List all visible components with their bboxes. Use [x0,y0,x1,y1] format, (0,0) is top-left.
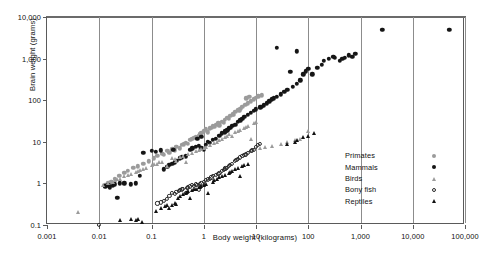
data-point-mammals [264,101,268,105]
data-point-reptiles [285,142,289,146]
data-point-bony-fish [161,199,165,203]
data-point-mammals [188,147,192,151]
data-point-mammals [270,97,274,101]
data-point-primates [136,164,140,168]
data-point-reptiles [228,170,232,174]
data-point-bony-fish [209,175,213,179]
data-point-birds [212,141,216,145]
data-point-reptiles [198,185,202,189]
data-point-primates [161,153,165,157]
chart-legend: PrimatesMammalsBirdsBony fishReptiles [345,150,441,207]
data-point-mammals [170,161,174,165]
data-point-reptiles [312,131,316,135]
data-point-primates [110,182,114,186]
legend-label: Birds [345,174,427,183]
data-point-birds [101,183,105,187]
data-point-reptiles [165,203,169,207]
data-point-mammals [319,63,323,67]
data-point-bony-fish [198,182,202,186]
data-point-reptiles [194,187,198,191]
data-point-primates [113,176,117,180]
data-point-mammals [171,147,175,151]
data-point-bony-fish [197,188,201,192]
data-point-bony-fish [227,164,231,168]
legend-item-primates: Primates [345,150,441,161]
legend-marker-glyph [432,165,436,169]
data-point-bony-fish [233,159,237,163]
data-point-birds [122,174,126,178]
data-point-primates [209,125,213,129]
data-point-reptiles [227,171,231,175]
data-point-reptiles [118,218,122,222]
data-point-primates [217,123,221,127]
legend-item-birds: Birds [345,173,441,184]
data-point-primates [244,96,248,100]
data-point-mammals [226,126,230,130]
data-point-bony-fish [192,184,196,188]
data-point-reptiles [140,220,144,224]
data-point-birds [106,181,110,185]
data-point-mammals [282,90,286,94]
data-point-reptiles [174,202,178,206]
data-point-mammals [246,112,250,116]
data-point-mammals [211,138,215,142]
data-point-birds [118,177,122,181]
data-point-primates [186,142,190,146]
data-point-bony-fish [188,184,192,188]
data-point-mammals [294,49,298,53]
data-point-bony-fish [244,152,248,156]
data-point-mammals [122,181,126,185]
data-point-bony-fish [249,149,253,153]
data-point-birds [134,170,138,174]
y-axis-tick [43,59,47,60]
data-point-birds [225,134,229,138]
data-point-birds [236,129,240,133]
data-point-birds [238,128,242,132]
data-point-mammals [331,55,335,59]
data-point-mammals [288,70,292,74]
y-axis-tick [43,142,47,143]
data-point-reptiles [240,164,244,168]
data-point-birds [160,160,164,164]
data-point-mammals [225,128,229,132]
data-point-reptiles [238,174,242,178]
gridline-vertical [465,17,466,223]
legend-item-reptiles: Reptiles [345,196,441,207]
data-point-mammals [240,116,244,120]
data-point-mammals [108,185,112,189]
data-point-mammals [190,146,194,150]
data-point-mammals [134,181,138,185]
data-point-birds [76,210,80,214]
data-point-reptiles [223,173,227,177]
data-point-reptiles [192,187,196,191]
data-point-primates [249,99,253,103]
x-axis-tick [361,225,362,229]
data-point-birds [181,154,185,158]
gridline-vertical [99,17,100,223]
data-point-mammals [347,53,351,57]
data-point-birds [173,157,177,161]
data-point-bony-fish [176,189,180,193]
data-point-mammals [196,144,200,148]
y-axis-tick [43,225,47,226]
data-point-mammals [285,87,289,91]
legend-label: Primates [345,151,427,160]
data-point-primates [228,114,232,118]
data-point-bony-fish [211,174,215,178]
data-point-mammals [219,131,223,135]
data-point-bony-fish [223,166,227,170]
data-point-birds [144,166,148,170]
data-point-reptiles [293,140,297,144]
data-point-mammals [233,122,237,126]
data-point-mammals [228,125,232,129]
data-point-mammals [272,96,276,100]
data-point-reptiles [178,194,182,198]
data-point-bony-fish [173,192,177,196]
data-point-birds [178,155,182,159]
legend-marker-open-circle [427,184,441,195]
data-point-reptiles [176,196,180,200]
data-point-primates [180,143,184,147]
data-point-mammals [260,104,264,108]
data-point-mammals [106,183,110,187]
data-point-mammals [327,56,331,60]
